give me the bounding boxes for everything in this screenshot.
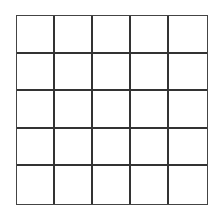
grid-cell	[93, 16, 131, 54]
grid-cell	[17, 91, 55, 129]
grid-cell	[55, 54, 93, 92]
grid-cell	[169, 54, 207, 92]
grid-cell	[93, 91, 131, 129]
grid-cell	[55, 16, 93, 54]
grid-cell	[17, 16, 55, 54]
grid-cell	[131, 129, 169, 167]
grid-cell	[131, 166, 169, 204]
grid-cell	[93, 166, 131, 204]
grid-cell	[169, 91, 207, 129]
grid-cell	[55, 129, 93, 167]
grid-cell	[93, 54, 131, 92]
grid-cell	[55, 91, 93, 129]
grid-cell	[169, 129, 207, 167]
grid-cell	[131, 16, 169, 54]
grid-cell	[17, 166, 55, 204]
grid-cell	[17, 129, 55, 167]
grid-cell	[93, 129, 131, 167]
grid-cell	[17, 54, 55, 92]
grid-cell	[131, 91, 169, 129]
grid-cell	[169, 166, 207, 204]
grid-cell	[131, 54, 169, 92]
grid-cell	[55, 166, 93, 204]
grid-cell	[169, 16, 207, 54]
empty-5x5-grid	[16, 15, 208, 205]
